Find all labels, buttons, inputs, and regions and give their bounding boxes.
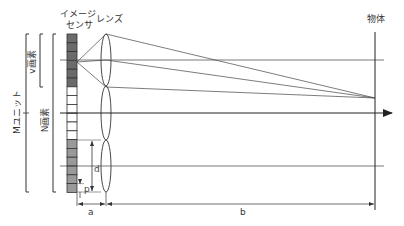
v-pixels-label: v画素: [26, 50, 37, 73]
light-rays: [77, 34, 375, 98]
a-label: a: [88, 207, 94, 217]
d-label: d: [94, 164, 100, 174]
v-pixels-bracket: [40, 34, 43, 87]
n-pixels-bracket: [53, 34, 56, 192]
b-label: b: [240, 207, 246, 217]
lens-label: レンズ: [96, 13, 123, 24]
object-label: 物体: [367, 13, 385, 24]
image-sensor-label-line2: センサ: [66, 20, 93, 30]
optics-diagram: イメージ センサ レンズ 物体 Mユニット v画素 N画素: [0, 0, 404, 226]
m-unit-label: Mユニット: [12, 90, 22, 134]
n-pixels-label: N画素: [39, 108, 50, 133]
p-label: p: [84, 184, 90, 194]
image-sensor-label-line1: イメージ: [60, 9, 96, 19]
